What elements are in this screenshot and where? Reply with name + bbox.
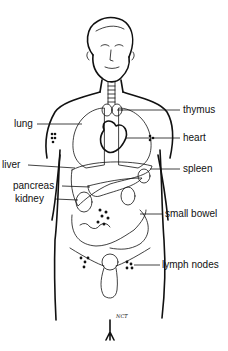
- pelvis: [70, 248, 150, 298]
- label-kidney: kidney: [15, 193, 44, 204]
- label-spleen: spleen: [183, 163, 212, 174]
- torso-outline: [46, 92, 173, 320]
- body-illustration: lung liver pancreas kidney thymus heart …: [0, 0, 228, 351]
- lymph-node-dots: [51, 133, 155, 270]
- heart: [101, 121, 127, 152]
- artist-signature: NCT: [115, 313, 128, 319]
- label-lymph-nodes: lymph nodes: [162, 259, 219, 270]
- kidney-left: [76, 192, 92, 212]
- neck: [100, 80, 123, 104]
- leg-divider: [106, 320, 114, 340]
- head: [87, 18, 135, 82]
- label-lung: lung: [14, 118, 33, 129]
- kidney-right: [121, 187, 135, 205]
- label-heart: heart: [183, 132, 206, 143]
- pancreas: [88, 178, 142, 197]
- label-thymus: thymus: [183, 104, 215, 115]
- label-small-bowel: small bowel: [165, 208, 217, 219]
- label-pancreas: pancreas: [13, 180, 54, 191]
- bowel: [72, 210, 149, 249]
- anatomy-diagram: lung liver pancreas kidney thymus heart …: [0, 0, 228, 351]
- liver: [71, 162, 152, 206]
- label-liver: liver: [2, 159, 21, 170]
